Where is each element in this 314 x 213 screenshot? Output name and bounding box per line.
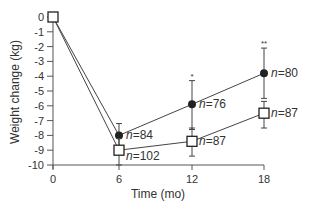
open-square-marker (259, 108, 269, 118)
significance-marker: ** (261, 39, 267, 48)
y-axis-label: Weight change (kg) (8, 40, 22, 144)
y-tick-label: -8 (34, 129, 44, 141)
sample-size-label: n=76 (199, 97, 226, 111)
y-tick-label: -7 (34, 115, 44, 127)
sample-size-label: n=87 (271, 106, 298, 120)
series-filled-circle: ***n=84n=76n=80 (53, 17, 298, 150)
series-line (53, 17, 264, 150)
sample-size-label: n=87 (199, 134, 226, 148)
series-layer: ***n=84n=76n=80n=102n=87n=87 (48, 12, 298, 165)
x-axis-label: Time (mo) (131, 187, 185, 201)
x-tick-label: 6 (116, 173, 122, 185)
y-tick-label: -1 (34, 26, 44, 38)
x-tick-label: 12 (186, 173, 198, 185)
open-square-marker (48, 12, 58, 22)
open-square-marker (187, 136, 197, 146)
y-tick-label: -9 (34, 144, 44, 156)
y-tick-label: -10 (28, 159, 44, 171)
sample-size-label: n=80 (271, 66, 298, 80)
significance-marker: * (190, 72, 193, 81)
y-tick-label: -4 (34, 70, 44, 82)
series-line (53, 17, 264, 135)
open-square-marker (114, 145, 124, 155)
series-open-square: n=102n=87n=87 (48, 12, 298, 165)
weight-change-chart: 0-1-2-3-4-5-6-7-8-9-10061218 ***n=84n=76… (0, 0, 314, 213)
y-tick-label: -5 (34, 85, 44, 97)
x-tick-label: 18 (258, 173, 270, 185)
y-tick-label: 0 (38, 11, 44, 23)
filled-circle-marker (188, 100, 196, 108)
y-tick-label: -6 (34, 100, 44, 112)
sample-size-label: n=84 (126, 128, 153, 142)
filled-circle-marker (260, 69, 268, 77)
sample-size-label: n=102 (126, 149, 160, 163)
x-tick-label: 0 (50, 173, 56, 185)
y-tick-label: -3 (34, 55, 44, 67)
y-tick-label: -2 (34, 41, 44, 53)
